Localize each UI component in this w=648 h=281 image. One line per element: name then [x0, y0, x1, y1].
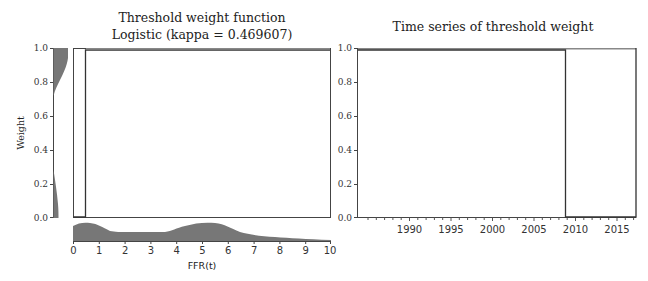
- y-marginal-density: [54, 48, 69, 96]
- left-chart-subtitle: Logistic (kappa = 0.469607): [112, 27, 293, 42]
- left-x-axis: [73, 242, 331, 245]
- right-x-minor-ticks: [368, 218, 634, 222]
- right-chart: Time series of threshold weight 0.0 0.2 …: [338, 19, 636, 235]
- y-marginal-density-lower: [54, 170, 59, 218]
- right-y-axis: [354, 48, 358, 218]
- svg-text:7: 7: [251, 245, 257, 256]
- svg-text:5: 5: [199, 245, 205, 256]
- left-plot-frame: [74, 49, 331, 218]
- svg-text:8: 8: [277, 245, 283, 256]
- right-x-tick-labels: 1990 1995 2000 2005 2010 2015: [397, 224, 630, 235]
- right-chart-title: Time series of threshold weight: [393, 19, 594, 34]
- svg-text:2010: 2010: [563, 224, 588, 235]
- left-x-axis-label: FFR(t): [188, 260, 217, 271]
- svg-text:0.6: 0.6: [34, 111, 49, 121]
- svg-text:3: 3: [148, 245, 154, 256]
- svg-text:0.4: 0.4: [34, 145, 49, 155]
- left-y-axis: [50, 48, 54, 218]
- svg-text:9: 9: [303, 245, 309, 256]
- svg-text:6: 6: [225, 245, 231, 256]
- svg-text:0.4: 0.4: [338, 145, 353, 155]
- svg-text:1995: 1995: [438, 224, 463, 235]
- svg-text:2005: 2005: [521, 224, 546, 235]
- svg-text:1.0: 1.0: [34, 43, 49, 53]
- svg-text:0.0: 0.0: [34, 213, 49, 223]
- left-y-tick-labels: 0.0 0.2 0.4 0.6 0.8 1.0: [34, 43, 49, 223]
- left-y-axis-label: Weight: [15, 116, 26, 150]
- threshold-weight-series-line: [358, 48, 636, 217]
- chart-canvas: Threshold weight function Logistic (kapp…: [0, 0, 648, 281]
- left-x-tick-labels: 0 1 2 3 4 5 6 7 8 9 10: [70, 245, 336, 256]
- svg-text:2015: 2015: [604, 224, 629, 235]
- svg-text:10: 10: [324, 245, 337, 256]
- svg-text:0: 0: [70, 245, 76, 256]
- svg-text:1: 1: [96, 245, 102, 256]
- left-chart-title: Threshold weight function: [118, 10, 285, 25]
- left-chart: Threshold weight function Logistic (kapp…: [15, 10, 336, 271]
- svg-text:0.8: 0.8: [34, 77, 49, 87]
- svg-text:0.2: 0.2: [338, 179, 352, 189]
- weight-function-line: [74, 50, 331, 217]
- svg-text:1990: 1990: [397, 224, 422, 235]
- svg-text:0.2: 0.2: [34, 179, 48, 189]
- svg-text:0.8: 0.8: [338, 77, 353, 87]
- x-marginal-density: [73, 223, 331, 241]
- svg-text:2000: 2000: [480, 224, 505, 235]
- svg-text:4: 4: [174, 245, 180, 256]
- svg-text:1.0: 1.0: [338, 43, 353, 53]
- svg-text:0.0: 0.0: [338, 213, 353, 223]
- svg-text:0.6: 0.6: [338, 111, 353, 121]
- right-y-tick-labels: 0.0 0.2 0.4 0.6 0.8 1.0: [338, 43, 353, 223]
- svg-text:2: 2: [122, 245, 128, 256]
